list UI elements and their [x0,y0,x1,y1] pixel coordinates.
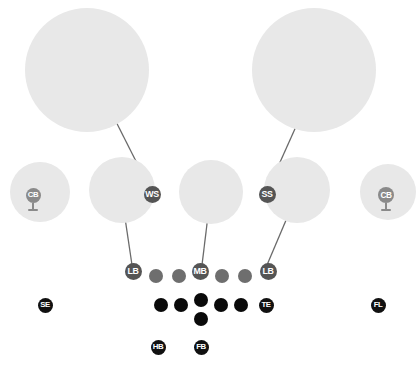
weak-safety[interactable]: WS [144,186,161,203]
defensive-lineman-2[interactable] [172,269,186,283]
middle-linebacker[interactable]: MB [192,263,209,280]
offensive-lineman-left-tackle[interactable] [154,298,168,312]
offensive-lineman-left-guard[interactable] [174,298,188,312]
quarterback[interactable] [194,312,208,326]
offensive-lineman-center[interactable] [194,293,208,307]
strong-safety[interactable]: SS [259,186,276,203]
cornerback-left[interactable]: CB [26,188,41,203]
defensive-lineman-1[interactable] [149,269,163,283]
middle-hook-zone [179,160,243,224]
linebacker-right[interactable]: LB [260,263,277,280]
defensive-lineman-3[interactable] [215,269,229,283]
cornerback-left-pin-base-icon [28,209,38,211]
deep-right-zone [252,8,376,132]
cornerback-right[interactable]: CB [378,187,394,203]
cornerback-right-pin-base-icon [381,209,391,211]
tight-end[interactable]: TE [259,298,274,313]
fullback[interactable]: FB [194,340,209,355]
linebacker-left[interactable]: LB [125,263,142,280]
football-play-diagram: CBWSSSCBLBMBLBSETEFLHBFB [0,0,418,365]
defensive-lineman-4[interactable] [238,269,252,283]
deep-left-zone [25,8,149,132]
offensive-lineman-right-guard[interactable] [214,298,228,312]
offensive-lineman-right-tackle[interactable] [234,298,248,312]
flanker[interactable]: FL [371,298,386,313]
halfback[interactable]: HB [151,340,166,355]
split-end[interactable]: SE [38,298,53,313]
